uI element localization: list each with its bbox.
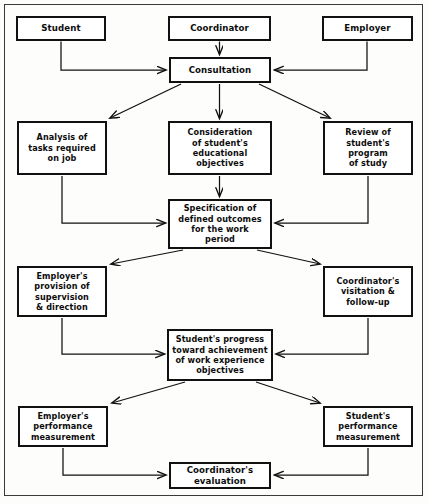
edge-employer-performance-evaluation xyxy=(63,448,166,475)
node-consultation[interactable]: Consultation xyxy=(169,57,271,83)
edge-progress-student-performance xyxy=(256,382,320,403)
edge-review-specification xyxy=(275,176,368,223)
edge-consultation-analysis xyxy=(110,84,181,118)
node-coordinator-evaluation-label: Coordinator's evaluation xyxy=(187,465,254,487)
node-analysis-of-tasks[interactable]: Analysis of tasks required on job xyxy=(17,121,107,175)
node-employer-provision[interactable]: Employer's provision of supervision & di… xyxy=(17,266,107,317)
node-coordinator-visitation-label: Coordinator's visitation & follow-up xyxy=(337,276,400,307)
edge-student-consultation xyxy=(61,42,166,71)
edge-analysis-specification xyxy=(62,176,166,223)
node-consideration-of-objectives-label: Consideration of student's educational o… xyxy=(188,127,253,168)
node-student-progress-label: Student's progress toward achievement of… xyxy=(172,334,267,375)
node-employer-performance-label: Employer's performance measurement xyxy=(31,411,95,442)
node-coordinator[interactable]: Coordinator xyxy=(168,16,271,41)
edge-employer-consultation xyxy=(275,42,368,71)
node-student-performance-label: Student's performance measurement xyxy=(336,411,400,442)
node-employer-provision-label: Employer's provision of supervision & di… xyxy=(34,271,89,312)
node-consultation-label: Consultation xyxy=(189,65,252,76)
node-specification-of-outcomes-label: Specification of defined outcomes for th… xyxy=(178,203,261,244)
node-employer-label: Employer xyxy=(344,23,390,34)
node-review-of-program[interactable]: Review of student's program of study xyxy=(323,121,413,175)
node-analysis-of-tasks-label: Analysis of tasks required on job xyxy=(28,132,96,163)
edge-progress-employer-performance xyxy=(112,382,185,403)
edge-specification-coordinator-visitation xyxy=(257,250,320,264)
edge-specification-employer-provision xyxy=(111,250,183,264)
edge-coordinator-visitation-progress xyxy=(276,318,368,354)
node-consideration-of-objectives[interactable]: Consideration of student's educational o… xyxy=(168,121,272,175)
node-specification-of-outcomes[interactable]: Specification of defined outcomes for th… xyxy=(168,199,272,249)
node-employer-performance[interactable]: Employer's performance measurement xyxy=(18,406,108,447)
node-student-performance[interactable]: Student's performance measurement xyxy=(323,406,413,447)
node-student-label: Student xyxy=(41,23,80,34)
edge-employer-provision-progress xyxy=(62,318,165,354)
node-student[interactable]: Student xyxy=(16,16,106,41)
edge-student-performance-evaluation xyxy=(275,448,369,475)
edge-consultation-review xyxy=(259,84,330,118)
node-student-progress[interactable]: Student's progress toward achievement of… xyxy=(167,329,273,381)
node-coordinator-label: Coordinator xyxy=(190,23,249,34)
node-coordinator-evaluation[interactable]: Coordinator's evaluation xyxy=(169,462,271,489)
node-coordinator-visitation[interactable]: Coordinator's visitation & follow-up xyxy=(323,266,413,317)
flowchart-canvas: Student Coordinator Employer Consultatio… xyxy=(0,0,429,504)
node-employer[interactable]: Employer xyxy=(322,16,413,41)
node-review-of-program-label: Review of student's program of study xyxy=(327,127,409,168)
